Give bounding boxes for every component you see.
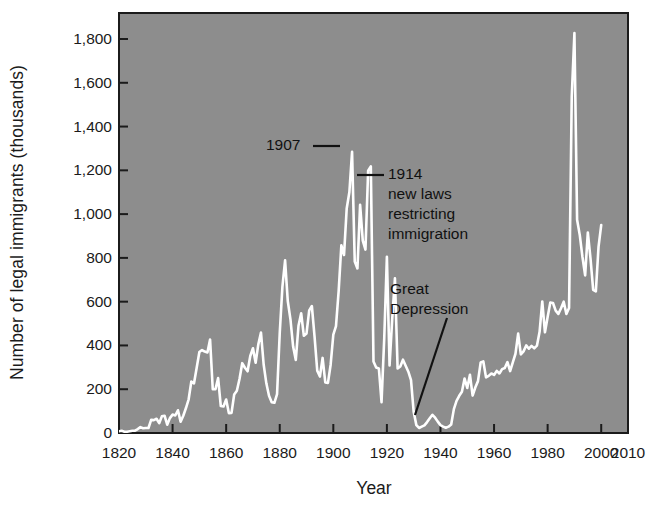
x-tick-label-1940: 1940 xyxy=(423,444,457,462)
annotation-1914-line4: immigration xyxy=(388,225,468,244)
annotation-great-depression-line1: Great xyxy=(390,280,429,299)
x-tick-label-1960: 1960 xyxy=(477,444,511,462)
x-tick-label-1880: 1880 xyxy=(262,444,296,462)
immigration-line-chart: Number of legal immigrants (thousands) 0… xyxy=(0,0,659,516)
x-tick-label-1840: 1840 xyxy=(155,444,189,462)
x-tick-label-1920: 1920 xyxy=(370,444,404,462)
x-tick-label-1860: 1860 xyxy=(209,444,243,462)
plot-area xyxy=(0,0,659,516)
annotation-1914-line3: restricting xyxy=(388,205,455,224)
x-axis-title: Year xyxy=(119,478,629,499)
x-tick-label-1900: 1900 xyxy=(316,444,350,462)
x-tick-label-2010: 2010 xyxy=(611,444,645,462)
x-tick-label-1820: 1820 xyxy=(102,444,136,462)
x-tick-label-1980: 1980 xyxy=(530,444,564,462)
annotation-1907: 1907 xyxy=(266,136,300,155)
annotation-1914-line2: new laws xyxy=(388,185,452,204)
annotation-great-depression-line2: Depression xyxy=(390,300,468,319)
annotation-1914-line1: 1914 xyxy=(388,165,422,184)
